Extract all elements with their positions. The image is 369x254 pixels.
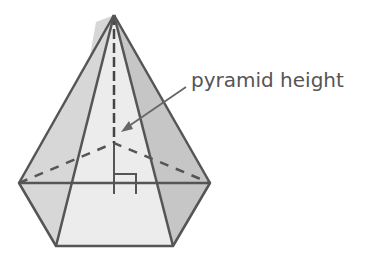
pyramid-diagram: pyramid height [0,0,369,254]
pyramid-height-label: pyramid height [191,68,344,92]
